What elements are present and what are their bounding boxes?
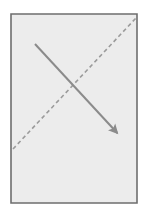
diagram-svg: [0, 0, 148, 215]
rectangle-panel: [11, 14, 137, 203]
diagram-canvas: [0, 0, 148, 215]
